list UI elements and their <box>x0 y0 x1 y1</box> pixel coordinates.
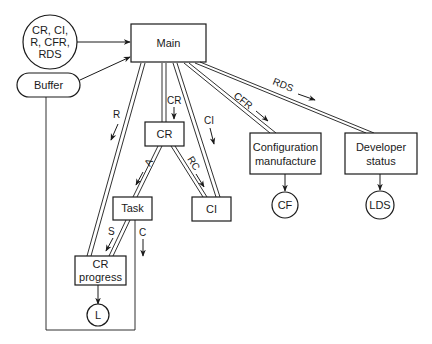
main-node: Main <box>131 24 206 62</box>
svg-text:RDS: RDS <box>38 48 61 60</box>
inputs-node: CR, CI, R, CFR, RDS <box>23 15 77 69</box>
svg-text:S: S <box>108 226 115 237</box>
svg-text:CR, CI,: CR, CI, <box>32 24 68 36</box>
flow-label-ci: CI <box>204 115 214 144</box>
cr-progress-node: CR progress <box>75 256 126 285</box>
svg-text:Buffer: Buffer <box>34 79 63 91</box>
svg-text:status: status <box>366 155 396 167</box>
svg-text:CFR: CFR <box>232 90 255 111</box>
svg-text:C: C <box>139 227 146 238</box>
svg-text:CI: CI <box>204 115 214 126</box>
flow-label-s: S <box>106 226 115 251</box>
flow-label-cr: CR <box>167 95 181 119</box>
lds-node: LDS <box>366 191 394 219</box>
task-node: Task <box>113 197 152 220</box>
cr-node: CR <box>145 122 184 146</box>
l-node: L <box>87 304 109 326</box>
flow-label-rc: RC <box>185 154 204 187</box>
svg-text:Configuration: Configuration <box>253 141 318 153</box>
svg-text:Developer: Developer <box>356 141 406 153</box>
config-node: Configuration manufacture <box>250 133 321 174</box>
svg-text:RDS: RDS <box>271 76 295 94</box>
flow-label-rds: RDS <box>271 76 315 100</box>
svg-text:L: L <box>95 309 101 321</box>
svg-text:CI: CI <box>206 203 217 215</box>
buffer-node: Buffer <box>17 73 80 97</box>
cf-node: CF <box>272 192 298 218</box>
flow-label-r: R <box>111 109 120 140</box>
svg-text:CR: CR <box>93 258 109 270</box>
svg-text:progress: progress <box>79 271 122 283</box>
svg-text:RC: RC <box>185 154 202 172</box>
svg-text:Task: Task <box>121 202 144 214</box>
svg-text:manufacture: manufacture <box>255 155 316 167</box>
svg-text:A: A <box>142 157 155 168</box>
svg-text:CR: CR <box>167 95 181 106</box>
svg-text:CR: CR <box>157 128 173 140</box>
svg-text:R: R <box>113 109 120 120</box>
developer-node: Developer status <box>345 133 417 174</box>
flow-label-c: C <box>139 227 146 256</box>
svg-text:LDS: LDS <box>369 199 390 211</box>
buffer-to-main-arrow <box>80 57 130 80</box>
ci-node: CI <box>192 197 231 221</box>
svg-text:Main: Main <box>157 37 181 49</box>
data-flow-diagram: CR, CI, R, CFR, RDS Buffer Main <box>0 0 432 344</box>
svg-text:R, CFR,: R, CFR, <box>30 36 70 48</box>
flow-lines <box>87 62 374 256</box>
svg-text:CF: CF <box>278 199 293 211</box>
